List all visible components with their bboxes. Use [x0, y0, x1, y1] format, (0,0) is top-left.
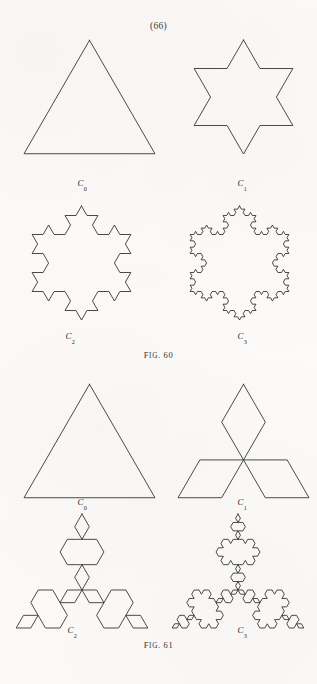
curve-label-subscript: 2 — [72, 338, 75, 345]
curve-label-letter: C — [237, 331, 243, 341]
curve-label-letter: C — [65, 331, 71, 341]
figure-61-caption: FIG. 61 — [0, 640, 317, 650]
koch-curve-path — [194, 40, 293, 154]
koch-curve-svg — [176, 382, 311, 500]
curve-label-subscript: 1 — [244, 185, 247, 192]
curve-label-subscript: 2 — [74, 632, 77, 639]
curve-label-subscript: 0 — [84, 504, 87, 511]
curve-label-c0: C0 — [52, 497, 112, 507]
koch-curve-figure — [176, 382, 311, 500]
scanned-page: (66) C0C1C2C3 FIG. 60 C0C1C2C3 FIG. 61 — [0, 0, 317, 684]
koch-curve-figure — [14, 204, 149, 322]
koch-curve-figure — [22, 38, 157, 156]
koch-curve-svg — [14, 204, 149, 322]
koch-curve-path — [178, 384, 309, 497]
curve-label-c0: C0 — [52, 178, 112, 188]
koch-curve-path — [190, 206, 289, 320]
curve-label-letter: C — [237, 497, 243, 507]
curve-label-c1: C1 — [212, 178, 272, 188]
curve-label-subscript: 1 — [244, 504, 247, 511]
curve-label-letter: C — [77, 497, 83, 507]
koch-curve-svg — [172, 204, 307, 322]
koch-curve-path — [24, 384, 155, 497]
curve-label-subscript: 3 — [244, 632, 247, 639]
koch-curve-svg — [22, 382, 157, 500]
koch-curve-path — [24, 40, 155, 153]
curve-label-c1: C1 — [212, 497, 272, 507]
koch-curve-path — [32, 206, 131, 320]
koch-curve-path — [16, 514, 148, 628]
curve-label-c2: C2 — [40, 331, 100, 341]
caption-number: . 60 — [158, 350, 173, 360]
koch-curve-svg — [12, 512, 152, 630]
koch-curve-figure — [168, 512, 308, 630]
curve-label-subscript: 0 — [84, 185, 87, 192]
koch-curve-svg — [176, 38, 311, 156]
page-number: (66) — [0, 21, 317, 31]
curve-label-c3: C3 — [212, 331, 272, 341]
curve-label-c2: C2 — [42, 625, 102, 635]
koch-curve-figure — [172, 204, 307, 322]
curve-label-letter: C — [237, 178, 243, 188]
curve-label-subscript: 3 — [244, 338, 247, 345]
koch-curve-path — [172, 514, 304, 628]
koch-curve-svg — [22, 38, 157, 156]
koch-curve-svg — [168, 512, 308, 630]
curve-label-letter: C — [67, 625, 73, 635]
curve-label-letter: C — [77, 178, 83, 188]
caption-smallcaps: IG — [149, 642, 158, 650]
koch-curve-figure — [12, 512, 152, 630]
caption-smallcaps: IG — [149, 352, 158, 360]
koch-curve-figure — [176, 38, 311, 156]
koch-curve-figure — [22, 382, 157, 500]
curve-label-letter: C — [237, 625, 243, 635]
caption-number: . 61 — [158, 640, 173, 650]
figure-60-caption: FIG. 60 — [0, 350, 317, 360]
curve-label-c3: C3 — [212, 625, 272, 635]
